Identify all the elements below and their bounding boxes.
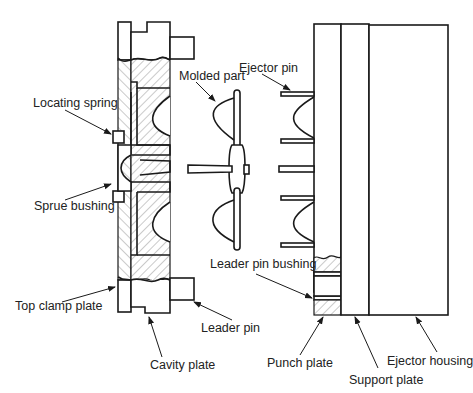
molded-part xyxy=(188,90,249,250)
punch-plate xyxy=(314,24,341,315)
ejector-housing xyxy=(369,25,448,315)
label-leader-pin: Leader pin xyxy=(201,321,260,335)
label-leader-pin-bushing: Leader pin bushing xyxy=(210,257,316,271)
label-ejector-pin: Ejector pin xyxy=(239,61,298,75)
ejector-pins xyxy=(279,92,314,247)
label-ejector-housing: Ejector housing xyxy=(387,354,473,368)
label-sprue-bushing: Sprue bushing xyxy=(34,199,115,213)
label-molded-part: Molded part xyxy=(179,69,245,83)
label-cavity-plate: Cavity plate xyxy=(150,358,215,372)
label-top-clamp-plate: Top clamp plate xyxy=(15,299,103,313)
label-support-plate: Support plate xyxy=(349,373,423,387)
support-plate xyxy=(341,24,369,315)
label-locating-spring: Locating spring xyxy=(33,96,118,110)
label-punch-plate: Punch plate xyxy=(267,356,333,370)
